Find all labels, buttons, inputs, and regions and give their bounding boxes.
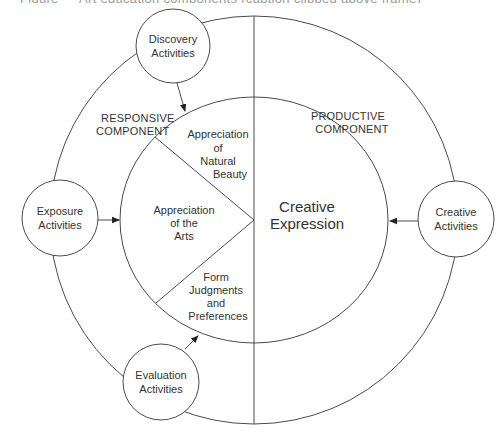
productive-line2: COMPONENT	[315, 123, 388, 135]
natural-beauty-line3: Natural	[200, 155, 235, 167]
judgments-line2: Judgments	[189, 284, 243, 296]
node-evaluation-line1: Evaluation	[135, 369, 186, 381]
natural-beauty-line4: Beauty	[213, 168, 248, 180]
node-creative-line2: Activities	[434, 220, 478, 232]
arts-line3: Arts	[174, 230, 194, 242]
arrow-discovery-to-natural-beauty	[177, 83, 185, 111]
node-creative-activities: Creative Activities	[418, 181, 494, 257]
art-education-diagram: Discovery Activities Exposure Activities…	[0, 0, 503, 441]
natural-beauty-line2: of	[213, 142, 223, 154]
arts-line1: Appreciation	[153, 204, 214, 216]
label-responsive-component: RESPONSIVE COMPONENT	[96, 112, 175, 137]
judgments-line4: Preferences	[188, 310, 248, 322]
node-evaluation-line2: Activities	[139, 383, 183, 395]
creative-expression-line1: Creative	[279, 198, 335, 215]
region-creative-expression: Creative Expression	[270, 198, 344, 232]
node-exposure-activities: Exposure Activities	[22, 180, 98, 256]
node-discovery-line2: Activities	[151, 47, 195, 59]
arts-line2: of the	[170, 217, 198, 229]
natural-beauty-line1: Appreciation	[187, 128, 248, 140]
region-form-judgments: Form Judgments and Preferences	[188, 271, 248, 322]
judgments-line1: Form	[203, 271, 229, 283]
responsive-line1: RESPONSIVE	[101, 112, 175, 124]
node-discovery-line1: Discovery	[149, 33, 198, 45]
node-creative-line1: Creative	[436, 206, 477, 218]
node-evaluation-activities: Evaluation Activities	[123, 344, 199, 420]
judgments-line3: and	[207, 297, 225, 309]
label-productive-component: PRODUCTIVE COMPONENT	[311, 110, 389, 135]
node-exposure-line2: Activities	[38, 219, 82, 231]
node-discovery-activities: Discovery Activities	[136, 9, 210, 83]
region-appreciation-of-arts: Appreciation of the Arts	[153, 204, 214, 242]
arrow-evaluation-to-judgments	[185, 336, 198, 349]
node-exposure-line1: Exposure	[37, 205, 83, 217]
creative-expression-line2: Expression	[270, 215, 344, 232]
productive-line1: PRODUCTIVE	[311, 110, 385, 122]
responsive-line2: COMPONENT	[96, 125, 169, 137]
